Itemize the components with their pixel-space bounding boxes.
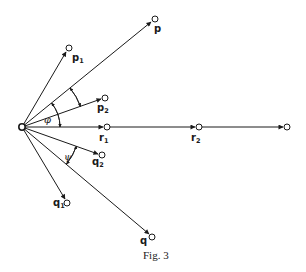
origin-node [19, 124, 25, 130]
node-q1 [64, 200, 70, 206]
node-p1 [66, 45, 72, 51]
vector-diagram: p1 p p2 r1 r2 q2 q1 q φ ψ Fig. 3 [0, 0, 306, 272]
label-r1: r1 [99, 132, 109, 145]
node-r2 [196, 124, 202, 130]
vector-p2 [22, 99, 101, 127]
vector-q1 [22, 127, 65, 199]
label-p2: p2 [97, 102, 109, 115]
node-p [152, 16, 158, 22]
node-p2 [102, 95, 108, 101]
label-q1: q1 [53, 197, 65, 210]
node-r1 [104, 124, 110, 130]
angle-psi-label: ψ [64, 151, 72, 162]
p2-p-arc [70, 88, 81, 107]
node-q2 [99, 152, 105, 158]
angle-phi-label: φ [44, 114, 51, 125]
labels: p1 p p2 r1 r2 q2 q1 q φ ψ Fig. 3 [44, 23, 200, 261]
vector-p [22, 22, 151, 127]
label-r2: r2 [191, 132, 200, 145]
label-q: q [140, 235, 147, 246]
vector-q2 [22, 127, 98, 154]
node-q [149, 234, 155, 240]
label-p1: p1 [72, 52, 84, 65]
figure-caption: Fig. 3 [143, 249, 169, 261]
vector-q [22, 127, 149, 234]
label-p: p [154, 23, 161, 34]
p2-p-arc-back [70, 88, 81, 107]
node-r3 [284, 124, 290, 130]
